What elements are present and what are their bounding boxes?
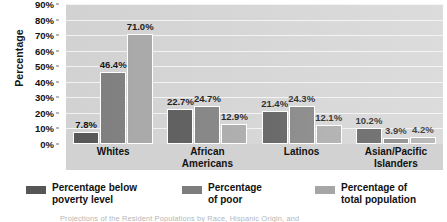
y-tick-mark: [56, 50, 59, 51]
bar-value-label: 21.4%: [261, 98, 288, 109]
y-tick-label: 90%: [35, 0, 54, 10]
y-tick-mark: [56, 19, 59, 20]
y-tick-label: 70%: [35, 30, 54, 41]
y-tick-mark: [56, 35, 59, 36]
y-tick-label: 60%: [35, 45, 54, 56]
y-tick-label: 40%: [35, 76, 54, 87]
y-tick-mark: [56, 81, 59, 82]
y-tick-mark: [56, 66, 59, 67]
x-axis-category-label: Whites: [97, 146, 130, 158]
bar-group: 21.4%24.3%12.1%: [262, 4, 342, 144]
legend-label-line: of poor: [208, 194, 262, 206]
plot-area: 7.8%46.4%71.0%22.7%24.7%12.9%21.4%24.3%1…: [66, 4, 443, 144]
bar[interactable]: [167, 109, 193, 144]
y-tick-label: 50%: [35, 61, 54, 72]
y-tick-label: 0%: [40, 139, 54, 150]
bar-value-label: 12.9%: [221, 111, 248, 122]
y-tick-mark: [56, 128, 59, 129]
category-label-line: African: [182, 146, 233, 158]
bar-group: 7.8%46.4%71.0%: [73, 4, 153, 144]
bar-value-label: 24.7%: [194, 93, 221, 104]
bar-value-label: 24.3%: [288, 93, 315, 104]
legend-label-line: poverty level: [52, 194, 137, 206]
plot-wrapper: 0%10%20%30%40%50%60%70%80%90% 7.8%46.4%7…: [28, 4, 443, 166]
bar-value-label: 4.2%: [412, 124, 434, 135]
bar[interactable]: [356, 128, 382, 144]
bar[interactable]: [100, 72, 126, 144]
y-tick-mark: [56, 112, 59, 113]
chart-legend: Percentage belowpoverty levelPercentageo…: [26, 183, 446, 211]
bar-chart-figure: Percentage 0%10%20%30%40%50%60%70%80%90%…: [0, 0, 447, 222]
legend-label-line: Percentage below: [52, 182, 137, 194]
bar[interactable]: [262, 111, 288, 144]
y-tick-mark: [56, 97, 59, 98]
bar-value-label: 10.2%: [355, 115, 382, 126]
legend-swatch: [26, 186, 46, 194]
bar[interactable]: [221, 124, 247, 144]
source-caption: Projections of the Resident Populations …: [60, 214, 447, 222]
legend-label: Percentage oftotal population: [341, 182, 416, 205]
y-tick-label: 20%: [35, 107, 54, 118]
y-tick-label: 80%: [35, 14, 54, 25]
legend-label: Percentageof poor: [208, 182, 262, 205]
legend-label-line: Percentage: [208, 182, 262, 194]
y-axis-title: Percentage: [13, 13, 25, 103]
bar[interactable]: [316, 125, 342, 144]
bar[interactable]: [194, 106, 220, 144]
category-label-line: Latinos: [284, 146, 320, 158]
bar-group: 10.2%3.9%4.2%: [356, 4, 436, 144]
category-label-line: Whites: [97, 146, 130, 158]
bar-value-label: 71.0%: [127, 21, 154, 32]
legend-label-line: Percentage of: [341, 182, 416, 194]
y-tick-mark: [56, 4, 59, 5]
bar-value-label: 7.8%: [75, 119, 97, 130]
y-tick-label: 10%: [35, 123, 54, 134]
legend-swatch: [315, 186, 335, 194]
bar-value-label: 3.9%: [385, 125, 407, 136]
category-label-line: Islanders: [365, 158, 427, 170]
y-tick-mark: [56, 144, 59, 145]
bar-value-label: 46.4%: [100, 59, 127, 70]
legend-swatch: [182, 186, 202, 194]
bar-value-label: 12.1%: [315, 112, 342, 123]
x-axis-category-label: Latinos: [284, 146, 320, 158]
bar-value-label: 22.7%: [167, 96, 194, 107]
bar[interactable]: [289, 106, 315, 144]
y-axis-tick-labels: 0%10%20%30%40%50%60%70%80%90%: [28, 4, 60, 144]
category-label-line: Americans: [182, 158, 233, 170]
legend-label-line: total population: [341, 194, 416, 206]
bar[interactable]: [127, 34, 153, 144]
x-axis-category-label: AfricanAmericans: [182, 146, 233, 169]
bar-group: 22.7%24.7%12.9%: [167, 4, 247, 144]
x-axis-category-labels: WhitesAfricanAmericansLatinosAsian/Pacif…: [66, 144, 443, 170]
legend-label: Percentage belowpoverty level: [52, 182, 137, 205]
y-tick-label: 30%: [35, 92, 54, 103]
x-axis-category-label: Asian/PacificIslanders: [365, 146, 427, 169]
category-label-line: Asian/Pacific: [365, 146, 427, 158]
bar[interactable]: [73, 132, 99, 144]
